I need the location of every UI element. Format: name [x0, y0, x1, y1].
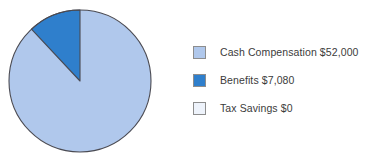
legend-swatch-benefits	[193, 74, 206, 87]
legend-item-cash-compensation[interactable]: Cash Compensation $52,000	[193, 38, 369, 66]
pie-chart-svg	[8, 9, 152, 153]
legend-item-benefits[interactable]: Benefits $7,080	[193, 66, 369, 94]
legend-label-cash-compensation: Cash Compensation $52,000	[220, 46, 359, 59]
legend-swatch-cash-compensation	[193, 46, 206, 59]
pie-chart-figure: Cash Compensation $52,000 Benefits $7,08…	[0, 0, 369, 161]
legend-item-tax-savings[interactable]: Tax Savings $0	[193, 94, 369, 122]
chart-legend: Cash Compensation $52,000 Benefits $7,08…	[193, 38, 369, 122]
legend-label-tax-savings: Tax Savings $0	[220, 102, 293, 115]
pie-chart-plot-area	[8, 9, 152, 153]
legend-swatch-tax-savings	[193, 102, 206, 115]
legend-label-benefits: Benefits $7,080	[220, 74, 294, 87]
